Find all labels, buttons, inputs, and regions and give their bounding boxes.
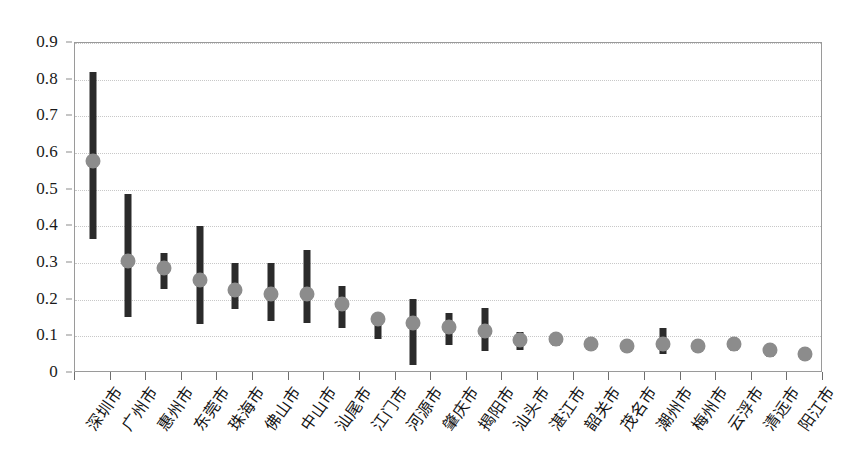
x-tick-mark [680,372,681,380]
y-tick-mark [66,188,72,189]
y-tick-mark [66,372,72,373]
data-point-group [253,43,289,371]
data-point-marker [620,338,635,353]
x-tick-label: 湛江市 [542,381,590,435]
data-point-marker [157,260,172,275]
data-point-group [75,43,111,371]
data-point-group [217,43,253,371]
x-tick-mark [395,372,396,380]
y-tick-label: 0.9 [36,32,58,52]
x-tick-mark [501,372,502,380]
data-point-marker [335,297,350,312]
data-point-marker [121,254,136,269]
data-point-marker [85,153,100,168]
x-tick-label: 汕头市 [507,381,555,435]
x-axis-labels: 深圳市广州市惠州市东莞市珠海市佛山市中山市汕尾市江门市河源市肇庆市揭阳市汕头市湛… [74,381,822,467]
x-tick-label: 中山市 [293,381,341,435]
x-tick-label: 茂名市 [614,381,662,435]
data-point-marker [548,332,563,347]
x-tick-label: 深圳市 [79,381,127,435]
data-point-marker [263,286,278,301]
data-point-group [538,43,574,371]
y-tick-label: 0.8 [36,69,58,89]
y-tick-mark [66,262,72,263]
x-tick-mark [466,372,467,380]
data-point-group [645,43,681,371]
y-tick-mark [66,78,72,79]
data-point-marker [584,336,599,351]
data-point-group [467,43,503,371]
x-tick-label: 揭阳市 [471,381,519,435]
data-point-group [609,43,645,371]
y-tick-label: 0.4 [36,215,58,235]
data-point-marker [477,323,492,338]
y-tick-label: 0.7 [36,105,58,125]
data-point-marker [441,319,456,334]
plot-area [74,42,822,372]
data-point-group [502,43,538,371]
x-tick-label: 惠州市 [151,381,199,435]
data-point-marker [406,315,421,330]
x-tick-mark [751,372,752,380]
data-point-group [752,43,788,371]
x-tick-label: 珠海市 [222,381,270,435]
data-point-marker [726,336,741,351]
x-tick-label: 广州市 [115,381,163,435]
x-tick-label: 阳江市 [792,381,840,435]
y-tick-mark [66,115,72,116]
data-point-group [574,43,610,371]
data-point-marker [192,273,207,288]
x-tick-mark [145,372,146,380]
x-tick-mark [430,372,431,380]
x-tick-label: 清远市 [756,381,804,435]
data-point-marker [513,333,528,348]
x-tick-mark [252,372,253,380]
x-tick-mark [359,372,360,380]
data-point-group [431,43,467,371]
y-axis: 00.10.20.30.40.50.60.70.80.9 [0,42,66,372]
y-tick-mark [66,42,72,43]
x-tick-mark [537,372,538,380]
x-tick-label: 汕尾市 [329,381,377,435]
x-tick-mark [288,372,289,380]
y-tick-label: 0.3 [36,252,58,272]
y-tick-label: 0.2 [36,289,58,309]
x-tick-mark [608,372,609,380]
x-tick-mark [110,372,111,380]
data-point-group [111,43,147,371]
x-tick-label: 佛山市 [257,381,305,435]
x-tick-label: 韶关市 [578,381,626,435]
data-point-group [681,43,717,371]
data-point-marker [798,347,813,362]
y-tick-label: 0.5 [36,179,58,199]
data-point-marker [370,312,385,327]
x-tick-label: 河源市 [400,381,448,435]
y-tick-mark [66,335,72,336]
data-point-marker [762,343,777,358]
x-axis-ticks [74,372,822,381]
x-tick-label: 江门市 [364,381,412,435]
x-tick-mark [822,372,823,380]
chart-container: 00.10.20.30.40.50.60.70.80.9 深圳市广州市惠州市东莞… [0,0,847,467]
data-point-marker [228,282,243,297]
data-point-group [289,43,325,371]
x-tick-mark [573,372,574,380]
x-tick-mark [644,372,645,380]
x-tick-mark [216,372,217,380]
x-tick-mark [181,372,182,380]
x-tick-label: 潮州市 [649,381,697,435]
data-point-group [787,43,823,371]
y-tick-mark [66,225,72,226]
data-point-group [396,43,432,371]
y-tick-label: 0.6 [36,142,58,162]
x-tick-label: 肇庆市 [436,381,484,435]
x-tick-mark [323,372,324,380]
data-point-marker [299,286,314,301]
data-point-group [182,43,218,371]
x-tick-mark [74,372,75,380]
x-tick-mark [715,372,716,380]
y-tick-mark [66,152,72,153]
x-tick-label: 东莞市 [186,381,234,435]
data-point-group [324,43,360,371]
data-point-group [360,43,396,371]
